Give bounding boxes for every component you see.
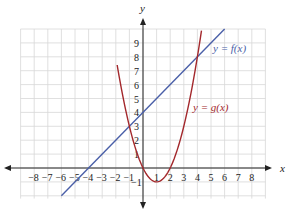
y-tick-label: 8 xyxy=(134,52,139,63)
x-tick-label: −6 xyxy=(55,172,66,183)
x-tick-label: −3 xyxy=(96,172,107,183)
y-tick-label: 9 xyxy=(134,38,139,49)
x-tick-label: 8 xyxy=(249,172,254,183)
x-tick-label: −2 xyxy=(110,172,121,183)
g-curve-label: y = g(x) xyxy=(192,101,229,114)
x-tick-label: 6 xyxy=(222,172,227,183)
x-axis-label: x xyxy=(279,162,285,174)
x-tick-label: −5 xyxy=(69,172,80,183)
y-tick-label: 3 xyxy=(134,121,139,132)
x-tick-label: 4 xyxy=(195,172,200,183)
y-tick-label: 5 xyxy=(134,94,139,105)
g-parabola xyxy=(117,31,201,182)
f-curve-label: y = f(x) xyxy=(212,42,246,55)
x-tick-label: −7 xyxy=(42,172,53,183)
y-tick-label: −1 xyxy=(131,177,142,188)
x-tick-label: −4 xyxy=(83,172,94,183)
function-graph: −8−7−6−5−4−3−2−112345678−1123456789 x y … xyxy=(0,0,291,211)
x-tick-label: 5 xyxy=(209,172,214,183)
x-tick-label: 7 xyxy=(236,172,241,183)
y-tick-label: 7 xyxy=(134,66,139,77)
x-tick-label: −8 xyxy=(28,172,39,183)
y-axis-label: y xyxy=(139,2,145,14)
x-tick-label: 3 xyxy=(181,172,186,183)
x-tick-label: 2 xyxy=(168,172,173,183)
y-tick-label: 6 xyxy=(134,80,139,91)
